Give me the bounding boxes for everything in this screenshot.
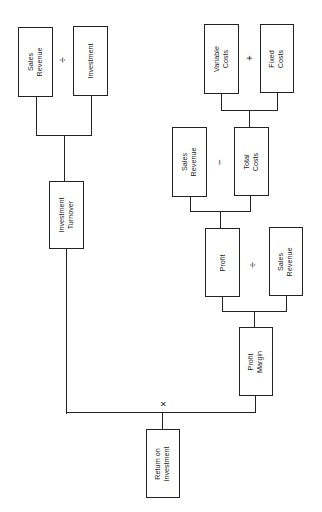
node-sales-revenue-it: SalesRevenue [18,27,53,97]
connector [162,412,163,429]
operator-plus: + [245,55,255,61]
connector [66,412,256,413]
connector [286,296,287,312]
connector [66,249,67,414]
operator-minus: − [215,159,225,165]
connector [36,96,37,136]
node-fixed-costs: FixedCosts [260,24,294,93]
connector [222,297,223,312]
operator-divide-it: ÷ [58,57,68,63]
connector [277,93,278,111]
connector [220,211,221,228]
connector [254,311,255,327]
operator-divide-pm: ÷ [248,262,258,268]
connector [221,94,222,111]
node-total-costs: TotalCosts [234,127,269,196]
connector [64,135,65,181]
connector [250,196,251,212]
node-profit: Profit [205,228,240,297]
connector [91,95,92,136]
connector [249,110,250,127]
node-variable-costs: VariableCosts [204,24,239,94]
node-investment: Investment [73,26,108,96]
node-sales-revenue-p: SalesRevenue [172,127,207,197]
node-return-on-investment: Return onInvestment [146,429,180,498]
connector [255,396,256,413]
node-sales-revenue-pm: SalesRevenue [269,227,303,296]
node-profit-margin: ProfitMargin [239,327,273,396]
node-investment-turnover: InvestmentTurnover [49,181,84,249]
connector [190,197,191,212]
operator-multiply: × [159,401,169,407]
